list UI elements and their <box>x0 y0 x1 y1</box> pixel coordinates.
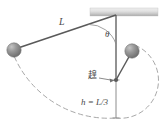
angle-arc <box>89 24 116 44</box>
pendulum-peg-diagram: L θ 䞹 h = L/3 <box>0 0 163 134</box>
pendulum-string-L <box>15 15 116 49</box>
peg-pointer-arrowhead <box>110 79 115 83</box>
angle-label-theta: θ <box>105 30 109 39</box>
height-label: h = L/3 <box>81 98 108 107</box>
peg-marker <box>114 78 118 82</box>
ceiling-support <box>90 8 158 16</box>
diagram-canvas <box>0 0 163 134</box>
peg-label: 䞹 <box>88 71 97 80</box>
peg-swing-arc <box>116 46 159 118</box>
pendulum-ball-right <box>125 44 139 58</box>
peg-string <box>116 55 130 80</box>
full-swing-arc <box>15 57 117 118</box>
length-label-L: L <box>59 17 65 27</box>
pendulum-ball-left <box>7 43 21 57</box>
